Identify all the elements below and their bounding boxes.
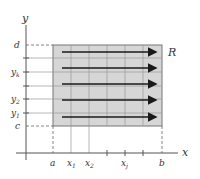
y-tick-yk: yk	[10, 67, 20, 78]
x-tick-x1: x1	[67, 158, 76, 169]
y-tick-y1: y1	[10, 108, 20, 119]
y-tick-y2: y2	[10, 94, 20, 105]
region-diagram: y x R d yk y2 y1 c a x1 x2 xj b	[0, 0, 200, 179]
x-tick-x2: x2	[85, 158, 94, 169]
x-tick-b: b	[159, 158, 165, 168]
x-axis-label: x	[182, 146, 189, 159]
region-label: R	[167, 46, 176, 59]
region-r	[53, 45, 162, 126]
y-tick-c: c	[15, 121, 20, 131]
x-tick-a: a	[50, 158, 55, 168]
x-tick-xj: xj	[121, 158, 128, 170]
y-tick-d: d	[14, 40, 20, 50]
y-axis-label: y	[21, 12, 29, 25]
